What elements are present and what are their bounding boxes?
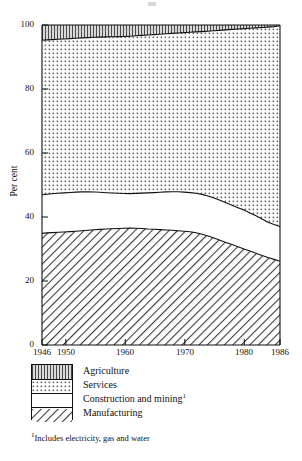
footnote-text: Includes electricity, gas and water bbox=[35, 433, 150, 443]
y-tick-label-80: 80 bbox=[8, 84, 34, 93]
swatch-pattern-diagonal-hatch bbox=[32, 409, 72, 422]
swatch-pattern-vertical-lines bbox=[32, 365, 72, 379]
x-tick-label-1980: 1980 bbox=[230, 348, 258, 357]
y-axis-label: Per cent bbox=[9, 151, 19, 211]
legend-label-agriculture-text: Agriculture bbox=[83, 365, 129, 376]
y-tick-label-100: 100 bbox=[8, 20, 34, 29]
area-bands bbox=[42, 25, 280, 345]
legend-label-manufacturing: Manufacturing bbox=[83, 406, 142, 420]
legend-label-construction-and-mining: Construction and mining1 bbox=[83, 392, 186, 406]
legend-swatch-services bbox=[32, 379, 72, 393]
legend-swatch-construction-and-mining bbox=[32, 393, 72, 407]
legend-label-services-text: Services bbox=[83, 379, 117, 390]
legend-label-agriculture: Agriculture bbox=[83, 364, 129, 378]
legend: Agriculture Services Construction and mi… bbox=[31, 364, 271, 420]
legend-label-manufacturing-text: Manufacturing bbox=[83, 407, 142, 418]
y-tick-label-20: 20 bbox=[8, 276, 34, 285]
legend-swatch-manufacturing bbox=[32, 407, 72, 421]
x-tick-label-1986: 1986 bbox=[266, 348, 294, 357]
legend-label-services: Services bbox=[83, 378, 117, 392]
plot-area: 100 80 60 40 20 0 Per cent 1946 1950 196… bbox=[0, 0, 302, 360]
x-tick-label-1970: 1970 bbox=[171, 348, 199, 357]
x-tick-label-1960: 1960 bbox=[111, 348, 139, 357]
legend-footnote-marker: 1 bbox=[182, 392, 186, 400]
legend-swatch-column bbox=[31, 364, 73, 420]
legend-swatch-agriculture bbox=[32, 365, 72, 379]
legend-label-construction-and-mining-text: Construction and mining bbox=[83, 393, 182, 404]
x-tick-label-1950: 1950 bbox=[52, 348, 80, 357]
figure-stacked-area-employment-shares: 100 80 60 40 20 0 Per cent 1946 1950 196… bbox=[0, 0, 302, 461]
y-tick-label-40: 40 bbox=[8, 212, 34, 221]
stacked-area-chart bbox=[0, 0, 302, 360]
footnote: 1Includes electricity, gas and water bbox=[31, 433, 150, 444]
